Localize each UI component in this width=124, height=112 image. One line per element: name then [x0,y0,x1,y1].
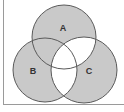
label-b: B [30,66,37,76]
venn-diagram: A B C [0,0,124,112]
label-c: C [86,66,93,76]
label-a: A [60,23,67,33]
